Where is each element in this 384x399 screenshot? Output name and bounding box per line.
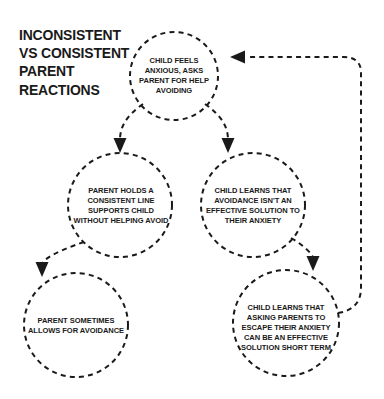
edge-anxious-to-parent-holds — [114, 104, 144, 153]
page-title-line-2: VS CONSISTENT — [19, 44, 128, 62]
edge-avoidance-ineffective-to-escape-effective — [291, 238, 320, 271]
node-circle-parent-sometimes-allows-avoidance — [24, 273, 128, 377]
diagram-canvas: INCONSISTENT VS CONSISTENT PARENT REACTI… — [0, 0, 384, 399]
edge-anxious-to-child-learns — [205, 104, 235, 153]
edge-parent-holds-to-sometimes-allows — [36, 242, 85, 277]
page-title: INCONSISTENT VS CONSISTENT PARENT REACTI… — [19, 26, 128, 99]
page-title-line-3: PARENT — [19, 62, 128, 80]
node-circle-child-feels-anxious — [130, 32, 218, 120]
node-circle-child-learns-avoidance-ineffective — [201, 153, 305, 257]
page-title-line-1: INCONSISTENT — [19, 26, 128, 44]
edge-escape-effective-to-anxious-feedback — [230, 51, 361, 314]
page-title-line-4: REACTIONS — [19, 81, 128, 99]
node-circle-child-learns-escape-effective — [233, 270, 339, 376]
